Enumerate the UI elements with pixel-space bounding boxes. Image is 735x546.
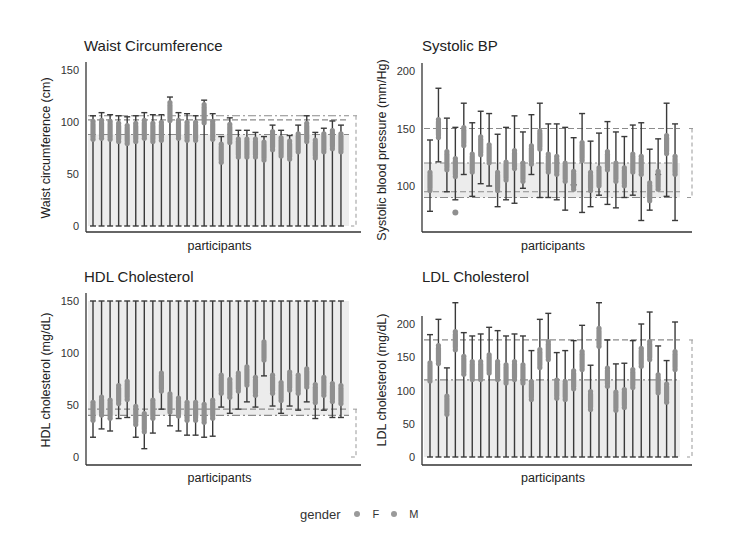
measurement-points: [537, 350, 542, 368]
measurement-point: [133, 139, 138, 144]
measurement-point: [330, 128, 335, 133]
measurement-points: [133, 406, 138, 424]
measurement-point: [125, 379, 130, 384]
measurement-point: [236, 136, 241, 141]
measurement-point: [176, 118, 181, 123]
measurement-point: [554, 378, 559, 383]
summary-bracket: [687, 129, 695, 198]
measurement-point: [159, 138, 164, 143]
measurement-point: [656, 390, 661, 395]
measurement-point: [184, 138, 189, 143]
measurement-points: [571, 171, 576, 189]
measurement-point: [150, 416, 155, 421]
measurement-point: [261, 140, 266, 145]
x-axis-label: participants: [188, 471, 252, 485]
measurement-point: [219, 391, 224, 396]
measurement-point: [613, 179, 618, 184]
measurement-point: [244, 154, 249, 159]
y-tick-label: 150: [397, 351, 415, 363]
panel-hdl-cholesterol: 050100150HDL CholesterolHDL cholesterol …: [39, 268, 361, 485]
measurement-point: [270, 129, 275, 134]
measurement-point: [605, 384, 610, 389]
measurement-point: [470, 151, 475, 156]
measurement-points: [605, 368, 610, 386]
measurement-points: [219, 144, 224, 162]
measurement-point: [142, 118, 147, 123]
measurement-points: [142, 120, 147, 138]
measurement-point: [338, 401, 343, 406]
measurement-points: [613, 163, 618, 181]
measurement-points: [453, 332, 458, 350]
legend-dot-f-icon: [354, 511, 360, 517]
measurement-point: [672, 349, 677, 354]
y-tick-label: 0: [73, 220, 79, 232]
measurement-point: [338, 131, 343, 136]
measurement-point: [236, 154, 241, 159]
measurement-points: [159, 373, 164, 391]
measurement-point: [184, 400, 189, 405]
measurement-points: [664, 136, 669, 154]
measurement-point: [487, 142, 492, 147]
measurement-point: [563, 179, 568, 184]
measurement-point: [664, 382, 669, 387]
measurement-point: [470, 359, 475, 364]
measurement-points: [512, 151, 517, 169]
measurement-point: [588, 407, 593, 412]
measurement-point: [461, 125, 466, 130]
measurement-point: [529, 397, 534, 402]
measurement-point: [664, 151, 669, 156]
measurement-points: [193, 402, 198, 420]
measurement-points: [630, 154, 635, 172]
measurement-point: [647, 180, 652, 185]
measurement-point: [444, 412, 449, 417]
measurement-point: [529, 143, 534, 148]
measurement-points: [529, 382, 534, 400]
measurement-points: [588, 172, 593, 190]
measurement-points: [444, 152, 449, 170]
measurement-point: [313, 400, 318, 405]
measurement-point: [639, 364, 644, 369]
measurement-point: [338, 383, 343, 388]
measurement-point: [478, 377, 483, 382]
measurement-point: [495, 170, 500, 175]
measurement-points: [647, 342, 652, 360]
measurement-point: [125, 397, 130, 402]
measurement-points: [461, 128, 466, 146]
measurement-points: [108, 400, 113, 418]
measurement-point: [588, 188, 593, 193]
measurement-point: [664, 133, 669, 138]
measurement-points: [478, 137, 483, 155]
measurement-point: [90, 137, 95, 142]
legend-title: gender: [300, 507, 340, 522]
measurement-point: [487, 352, 492, 357]
measurement-points: [664, 384, 669, 402]
measurement-point: [253, 136, 258, 141]
measurement-points: [253, 139, 258, 157]
measurement-points: [287, 141, 292, 159]
measurement-point: [133, 422, 138, 427]
y-tick-label: 100: [397, 385, 415, 397]
measurement-point: [321, 393, 326, 398]
measurement-point: [296, 373, 301, 378]
measurement-point: [622, 165, 627, 170]
measurement-point: [244, 364, 249, 369]
measurement-point: [116, 121, 121, 126]
measurement-point: [184, 120, 189, 125]
legend-label-m: M: [409, 508, 418, 520]
measurement-point: [125, 141, 130, 146]
measurement-point: [453, 174, 458, 179]
measurement-point: [279, 135, 284, 140]
measurement-point: [613, 161, 618, 166]
measurement-points: [622, 389, 627, 407]
measurement-point: [503, 159, 508, 164]
measurement-points: [99, 397, 104, 415]
measurement-point: [304, 139, 309, 144]
measurement-point: [202, 102, 207, 107]
y-tick-label: 0: [73, 451, 79, 463]
measurement-point: [90, 418, 95, 423]
measurement-point: [630, 169, 635, 174]
measurement-point: [588, 170, 593, 175]
measurement-point: [313, 155, 318, 160]
y-tick-label: 0: [409, 451, 415, 463]
measurement-point: [150, 139, 155, 144]
